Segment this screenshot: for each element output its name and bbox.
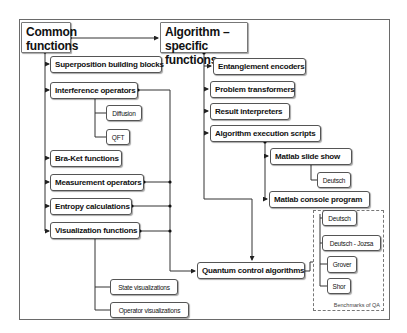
slideshow-deutsch-node: Deutsch (317, 172, 351, 188)
bra-ket-node: Bra-Ket functions (50, 150, 122, 167)
benchmark-deutsch-node: Deutsch (322, 210, 357, 226)
matlab-slideshow-node: Matlab slide show (270, 148, 352, 165)
common-functions-node: Common functions (21, 22, 71, 53)
result-interpreters-node: Result interpreters (210, 103, 290, 120)
algorithm-specific-node: Algorithm – specific functions (160, 22, 248, 53)
benchmark-shor-node: Shor (327, 278, 351, 294)
superposition-node: Superposition building blocks (50, 56, 162, 73)
problem-transformers-node: Problem transformers (210, 81, 295, 98)
entropy-node: Entropy calculations (50, 198, 132, 215)
execution-scripts-node: Algorithm execution scripts (210, 125, 321, 142)
entanglement-node: Entanglement encoders (213, 58, 306, 75)
diffusion-node: Diffusion (106, 105, 142, 121)
measurement-node: Measurement operators (50, 174, 144, 191)
visualization-node: Visualization functions (50, 222, 140, 239)
state-visualizations-node: State visualizations (110, 279, 178, 295)
matlab-console-node: Matlab console program (269, 191, 370, 208)
benchmark-grover-node: Grover (327, 256, 357, 273)
qft-node: QFT (106, 129, 130, 145)
benchmarks-caption: Benchmarks of QA (334, 302, 380, 308)
operator-visualizations-node: Operator visualizations (110, 302, 189, 318)
interference-node: Interference operators (50, 82, 138, 99)
benchmark-deutsch-jozsa-node: Deutsch - Jozsa (322, 235, 381, 251)
quantum-control-node: Quantum control algorithms (197, 262, 305, 279)
software-architecture-diagram: Common functions Superposition building … (0, 0, 407, 333)
